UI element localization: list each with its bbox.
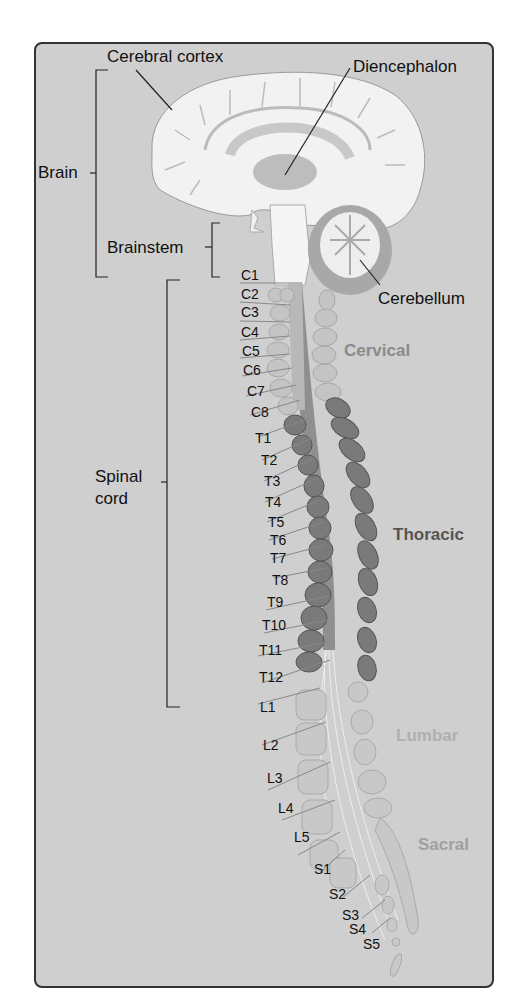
- segment-label: C6: [243, 363, 261, 377]
- segment-label: T1: [255, 431, 271, 445]
- segment-label: T3: [264, 474, 280, 488]
- segment-label: C7: [247, 384, 265, 398]
- label-brain: Brain: [38, 164, 78, 181]
- region-sacral: Sacral: [418, 836, 469, 853]
- segment-label: L5: [294, 830, 310, 844]
- segment-label: S2: [329, 887, 346, 901]
- segment-label: T9: [267, 595, 283, 609]
- segment-label: C5: [242, 344, 260, 358]
- segment-label: T10: [262, 618, 286, 632]
- segment-label: C1: [241, 268, 259, 282]
- region-cervical: Cervical: [344, 342, 410, 359]
- segment-label: C3: [241, 305, 259, 319]
- segment-label: T5: [268, 515, 284, 529]
- segment-label: S4: [349, 922, 366, 936]
- segment-label: L3: [267, 771, 283, 785]
- region-thoracic: Thoracic: [393, 526, 464, 543]
- brain-illustration: [152, 72, 425, 295]
- label-brainstem: Brainstem: [107, 239, 184, 256]
- label-spinal-cord-1: Spinal: [95, 468, 142, 485]
- segment-label: T12: [259, 670, 283, 684]
- segment-label: T8: [272, 573, 288, 587]
- label-cerebellum: Cerebellum: [378, 290, 465, 307]
- segment-label: L4: [278, 801, 294, 815]
- region-lumbar: Lumbar: [396, 727, 458, 744]
- segment-label: S1: [314, 862, 331, 876]
- segment-label: T4: [265, 495, 281, 509]
- segment-label: C8: [251, 405, 269, 419]
- segment-label: T11: [259, 643, 282, 657]
- segment-label: L1: [260, 700, 276, 714]
- segment-label: C2: [241, 287, 259, 301]
- label-cerebral-cortex: Cerebral cortex: [107, 48, 223, 65]
- label-spinal-cord-2: cord: [95, 490, 128, 507]
- label-diencephalon: Diencephalon: [353, 58, 457, 75]
- segment-label: C4: [241, 325, 259, 339]
- segment-label: S5: [363, 937, 380, 951]
- segment-label: S3: [342, 908, 359, 922]
- segment-label: T2: [261, 453, 277, 467]
- segment-label: L2: [263, 738, 279, 752]
- segment-label: T7: [270, 551, 286, 565]
- segment-label: T6: [270, 533, 286, 547]
